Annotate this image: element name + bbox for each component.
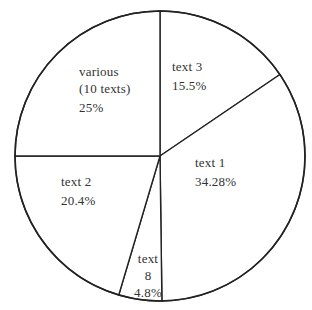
slice-label-text3-value: 15.5%	[172, 77, 207, 94]
slice-label-text8: text 8 4.8%	[133, 250, 163, 301]
slice-label-text3-name: text 3	[172, 58, 207, 75]
slice-label-text1-value: 34.28%	[195, 173, 236, 190]
slice-label-text8-value: 4.8%	[133, 284, 163, 301]
slice-label-various: various (10 texts) 25%	[79, 63, 130, 116]
slice-label-various-value: 25%	[79, 99, 130, 116]
slice-label-text2: text 2 20.4%	[61, 173, 96, 209]
slice-label-various-name: various	[79, 63, 130, 80]
slice-label-text1: text 1 34.28%	[195, 154, 236, 190]
slice-label-text8-subname: 8	[133, 267, 163, 284]
slice-label-text3: text 3 15.5%	[172, 58, 207, 94]
slice-label-text8-name: text	[133, 250, 163, 267]
slice-label-text2-name: text 2	[61, 173, 96, 190]
slice-label-text1-name: text 1	[195, 154, 236, 171]
slice-label-various-subname: (10 texts)	[79, 80, 130, 97]
slice-label-text2-value: 20.4%	[61, 192, 96, 209]
